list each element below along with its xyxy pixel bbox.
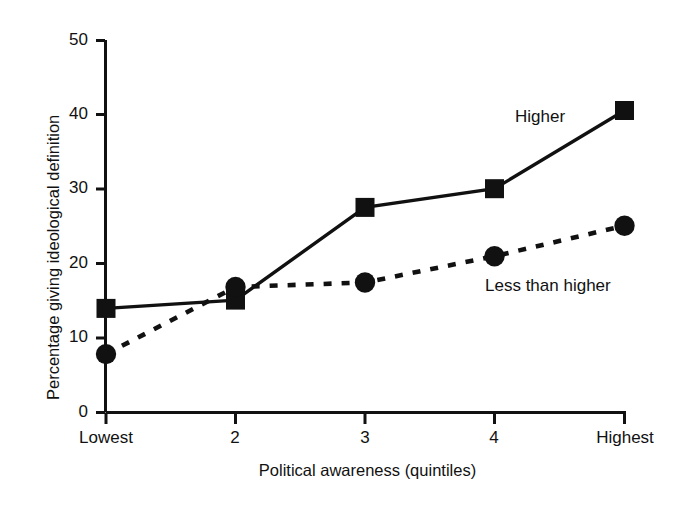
x-axis-ticks — [106, 413, 625, 424]
x-axis-title: Political awareness (quintiles) — [0, 461, 687, 480]
data-point-higher-highest — [615, 101, 634, 120]
y-axis-title: Percentage giving ideological definition — [44, 115, 63, 400]
data-point-less-2 — [225, 277, 245, 297]
chart-figure: 50 40 30 20 10 0 Lowest 2 3 4 Highest Pe… — [0, 0, 687, 505]
data-point-less-3 — [355, 272, 375, 292]
x-tick-label-lowest: Lowest — [51, 428, 161, 448]
data-point-less-4 — [484, 246, 504, 266]
x-tick-label-4: 4 — [439, 428, 549, 448]
data-point-higher-4 — [485, 179, 504, 198]
data-point-less-highest — [614, 216, 634, 236]
y-tick-label-50: 50 — [48, 30, 88, 50]
data-point-less-lowest — [96, 344, 116, 364]
data-point-higher-3 — [356, 198, 375, 217]
y-tick-label-0: 0 — [48, 402, 88, 422]
series-annotation-less-than-higher: Less than higher — [485, 276, 611, 296]
x-tick-label-3: 3 — [310, 428, 420, 448]
x-tick-label-2: 2 — [180, 428, 290, 448]
x-tick-label-highest: Highest — [570, 428, 680, 448]
series-annotation-higher: Higher — [515, 107, 565, 127]
data-point-higher-lowest — [97, 299, 116, 318]
